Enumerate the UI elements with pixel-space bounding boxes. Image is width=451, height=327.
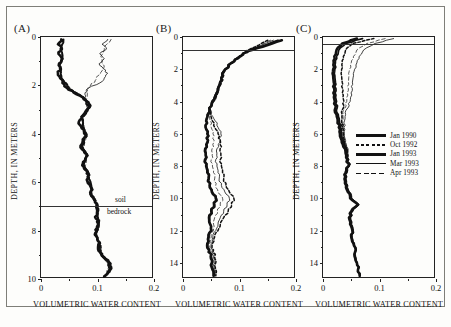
x-tick-mark xyxy=(98,279,99,282)
panel-c-soil-bedrock-line xyxy=(323,44,434,45)
panel-b-plot-area: 0246810121400.10.2 xyxy=(182,36,295,278)
y-tick-label: 12 xyxy=(300,227,318,235)
legend-label: Apr 1993 xyxy=(390,169,418,177)
x-tick-mark xyxy=(154,279,155,282)
y-minor-tick xyxy=(321,53,323,54)
y-tick-mark xyxy=(320,231,323,232)
x-minor-tick xyxy=(126,279,127,281)
y-tick-label: 2 xyxy=(18,81,36,89)
figure-root: (A) 024681000.10.2 DEPTH, IN METERS VOLU… xyxy=(0,0,451,327)
series-line xyxy=(205,40,278,276)
y-tick-mark xyxy=(320,134,323,135)
y-tick-label: 6 xyxy=(18,178,36,186)
x-tick-label: 0.2 xyxy=(425,284,447,292)
panel-a-soil-bedrock-line xyxy=(41,206,152,207)
y-tick-label: 6 xyxy=(300,130,318,138)
y-tick-mark xyxy=(180,134,183,135)
y-tick-mark xyxy=(38,231,41,232)
panel-c-plot-area: Jan 1990Oct 1992Jan 1993Mar 1993Apr 1993… xyxy=(322,36,435,278)
y-tick-mark xyxy=(180,37,183,38)
panel-a-curves xyxy=(41,37,154,279)
y-tick-label: 8 xyxy=(300,162,318,170)
x-tick-mark xyxy=(323,279,324,282)
y-minor-tick xyxy=(321,247,323,248)
y-minor-tick xyxy=(39,255,41,256)
y-minor-tick xyxy=(39,206,41,207)
y-minor-tick xyxy=(321,215,323,216)
y-minor-tick xyxy=(321,118,323,119)
x-tick-mark xyxy=(183,279,184,282)
y-tick-mark xyxy=(180,263,183,264)
panel-b-curves xyxy=(183,37,296,279)
y-minor-tick xyxy=(181,118,183,119)
panel-c-y-axis-label: DEPTH, IN METERS xyxy=(292,122,301,200)
y-minor-tick xyxy=(39,61,41,62)
x-tick-label: 0.1 xyxy=(87,284,109,292)
x-tick-label: 0 xyxy=(312,284,334,292)
legend-line-swatch xyxy=(356,169,386,178)
legend-label: Jan 1990 xyxy=(390,132,417,140)
series-line xyxy=(209,40,268,276)
y-minor-tick xyxy=(321,150,323,151)
y-minor-tick xyxy=(39,158,41,159)
legend-line-swatch xyxy=(356,141,386,150)
y-minor-tick xyxy=(39,110,41,111)
legend-label: Mar 1993 xyxy=(390,160,419,168)
panel-a-x-axis-label: VOLUMETRIC WATER CONTENT xyxy=(28,300,166,309)
legend-item: Jan 1993 xyxy=(356,150,419,159)
bedrock-annotation: bedrock xyxy=(107,207,131,216)
x-tick-label: 0 xyxy=(30,284,52,292)
y-minor-tick xyxy=(181,150,183,151)
y-tick-mark xyxy=(320,198,323,199)
y-minor-tick xyxy=(181,53,183,54)
y-minor-tick xyxy=(181,215,183,216)
y-tick-mark xyxy=(38,182,41,183)
legend-line-swatch xyxy=(356,150,386,159)
legend: Jan 1990Oct 1992Jan 1993Mar 1993Apr 1993 xyxy=(356,131,419,178)
legend-line-swatch xyxy=(356,159,386,168)
legend-line-swatch xyxy=(356,131,386,140)
y-minor-tick xyxy=(181,247,183,248)
legend-item: Apr 1993 xyxy=(356,169,419,178)
y-tick-mark xyxy=(38,134,41,135)
y-tick-mark xyxy=(38,85,41,86)
y-minor-tick xyxy=(181,182,183,183)
x-tick-label: 0.1 xyxy=(229,284,251,292)
legend-label: Oct 1992 xyxy=(390,141,417,149)
y-minor-tick xyxy=(321,85,323,86)
panel-a-plot-area: 024681000.10.2 xyxy=(40,36,153,278)
y-tick-label: 2 xyxy=(160,65,178,73)
y-tick-label: 0 xyxy=(18,33,36,41)
y-tick-mark xyxy=(320,69,323,70)
y-tick-mark xyxy=(180,102,183,103)
y-tick-mark xyxy=(180,166,183,167)
panel-a-y-axis-label: DEPTH, IN METERS xyxy=(10,122,19,200)
series-line xyxy=(205,40,282,276)
y-tick-label: 0 xyxy=(300,33,318,41)
y-tick-mark xyxy=(320,102,323,103)
y-tick-label: 6 xyxy=(160,130,178,138)
series-line xyxy=(58,39,111,276)
y-tick-label: 2 xyxy=(300,65,318,73)
x-tick-label: 0.1 xyxy=(369,284,391,292)
x-minor-tick xyxy=(69,279,70,281)
panel-b-x-axis-label: VOLUMETRIC WATER CONTENT xyxy=(170,300,308,309)
y-tick-label: 4 xyxy=(160,98,178,106)
x-minor-tick xyxy=(268,279,269,281)
x-tick-mark xyxy=(240,279,241,282)
y-tick-label: 10 xyxy=(160,194,178,202)
y-tick-label: 10 xyxy=(18,275,36,283)
y-tick-label: 8 xyxy=(18,227,36,235)
x-tick-mark xyxy=(436,279,437,282)
series-line xyxy=(210,40,274,276)
y-tick-mark xyxy=(320,37,323,38)
x-minor-tick xyxy=(408,279,409,281)
y-tick-mark xyxy=(180,231,183,232)
y-tick-mark xyxy=(180,198,183,199)
y-tick-label: 14 xyxy=(160,259,178,267)
x-tick-mark xyxy=(380,279,381,282)
x-tick-label: 0 xyxy=(172,284,194,292)
y-minor-tick xyxy=(181,85,183,86)
legend-item: Oct 1992 xyxy=(356,140,419,149)
panel-c-x-axis-label: VOLUMETRIC WATER CONTENT xyxy=(310,300,448,309)
